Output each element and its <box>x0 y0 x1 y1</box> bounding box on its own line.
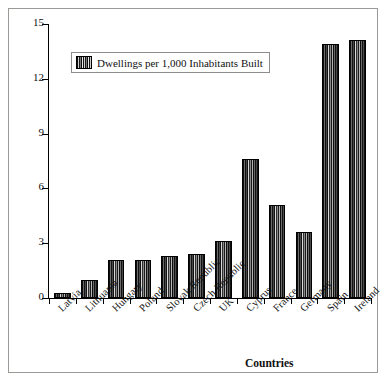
bar-series <box>49 24 371 298</box>
bar-column <box>161 24 178 298</box>
plot-area: 03691215 LatviaLithuaniaHungaryPolandSlo… <box>48 24 371 298</box>
y-tick-label: 12 <box>33 71 44 83</box>
y-tick-label: 15 <box>33 16 44 28</box>
bar-column <box>322 24 339 298</box>
y-tick-label: 0 <box>39 290 45 302</box>
bar-column <box>242 24 259 298</box>
bar-column <box>135 24 152 298</box>
bar-column <box>215 24 232 298</box>
bar <box>269 205 286 298</box>
bar-column <box>349 24 366 298</box>
y-tick-label: 3 <box>39 235 45 247</box>
x-tick-mark <box>49 298 50 304</box>
bar <box>296 232 313 298</box>
x-tick-mark <box>237 298 238 304</box>
bar <box>322 44 339 298</box>
bar <box>349 40 366 298</box>
bar-column <box>108 24 125 298</box>
bar-column <box>81 24 98 298</box>
y-tick-label: 6 <box>39 180 45 192</box>
y-tick-label: 9 <box>39 126 45 138</box>
bar-column <box>54 24 71 298</box>
bar-column <box>188 24 205 298</box>
chart-frame: Dwellings per 1,000 Inhabitants Built 03… <box>8 8 378 373</box>
x-axis-title: Countries <box>245 357 294 369</box>
bar-column <box>296 24 313 298</box>
bar <box>242 159 259 298</box>
bar-column <box>269 24 286 298</box>
